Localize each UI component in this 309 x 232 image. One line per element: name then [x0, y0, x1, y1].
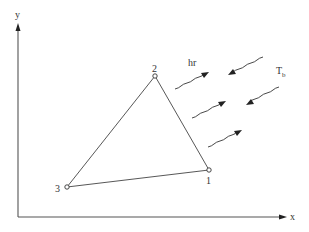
radiation-arrows: [175, 57, 279, 147]
node-1-label: 1: [206, 175, 211, 186]
radiation-arrow-4-wave: [250, 87, 279, 102]
radiation-arrow-1-head-icon: [201, 72, 209, 78]
edge-3-1: [67, 170, 209, 187]
node-3: [65, 185, 69, 189]
y-axis-label: y: [15, 9, 20, 20]
node-1: [207, 168, 211, 172]
node-2-label: 2: [152, 63, 157, 74]
boundary-temperature-label: Tb: [276, 65, 286, 79]
radiation-arrow-1-wave: [175, 74, 204, 89]
triangle-element-diagram: y x 1 2 3 hr Tb: [0, 0, 309, 232]
edge-2-3: [67, 76, 155, 187]
radiation-arrow-3-wave: [192, 103, 221, 118]
boundary-temperature-sub: b: [282, 71, 286, 79]
x-axis-label: x: [290, 211, 295, 222]
y-axis-arrow-icon: [16, 23, 21, 31]
triangle-edges: [67, 76, 209, 187]
node-3-label: 3: [55, 183, 60, 194]
edge-1-2: [155, 76, 209, 170]
radiation-arrow-3-head-icon: [218, 101, 226, 107]
radiation-coefficient-label: hr: [188, 57, 197, 68]
x-axis-arrow-icon: [279, 215, 287, 220]
radiation-arrow-5-wave: [208, 132, 236, 147]
radiation-arrow-2-head-icon: [228, 69, 236, 75]
node-2: [153, 74, 157, 78]
radiation-arrow-2-wave: [233, 57, 263, 72]
